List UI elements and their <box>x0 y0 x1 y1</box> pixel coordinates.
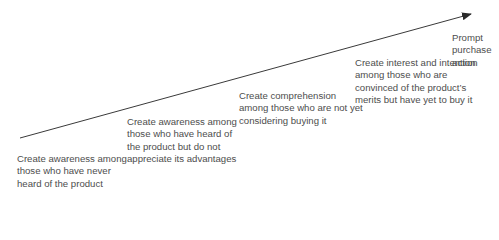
stage-2-label: Create awareness among those who have he… <box>127 116 247 166</box>
stage-3-label: Create comprehension among those who are… <box>239 90 364 127</box>
stage-5-label: Prompt purchase action <box>452 32 497 69</box>
stage-1-label: Create awareness among those who have ne… <box>17 153 132 190</box>
